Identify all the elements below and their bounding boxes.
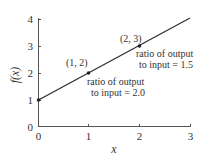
point-label: (1, 2)	[66, 57, 88, 69]
chart: 0 1 2 3 4 0 1 2 3 x f(x) (1, 2) (2, 3) r…	[0, 0, 206, 158]
x-axis-label: x	[110, 142, 117, 156]
x-tick-label: 1	[86, 130, 92, 142]
y-tick-label: 3	[28, 40, 34, 52]
y-axis-label: f(x)	[8, 67, 22, 84]
y-tick-label: 0	[28, 121, 34, 133]
data-point	[37, 98, 41, 102]
y-tick-label: 2	[28, 67, 34, 79]
y-tick-label: 4	[28, 13, 34, 25]
x-tick-label: 2	[137, 130, 143, 142]
annotation: ratio of output	[136, 48, 193, 59]
x-tick-label: 3	[188, 130, 194, 142]
y-tick-label: 1	[28, 94, 34, 106]
x-tick-label: 0	[36, 130, 42, 142]
annotation: ratio of output	[87, 76, 144, 87]
point-label: (2, 3)	[120, 33, 142, 45]
annotation: to input = 2.0	[91, 87, 145, 98]
data-point	[87, 71, 91, 75]
annotation: to input = 1.5	[139, 59, 193, 70]
